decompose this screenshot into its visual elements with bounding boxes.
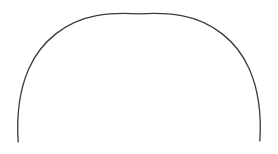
canvas-background [0,0,278,154]
arc-figure [0,0,278,154]
drawing-canvas [0,0,278,154]
